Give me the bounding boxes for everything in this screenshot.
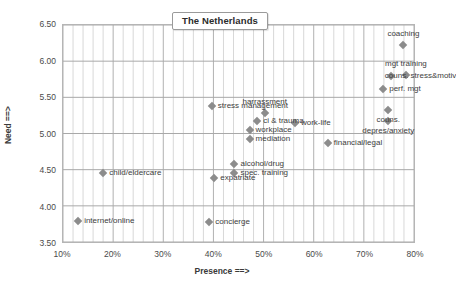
data-point-label: depres/anxiety [362, 126, 414, 135]
y-axis-tick-label: 6.50 [26, 19, 56, 29]
y-axis-tick-label: 4.50 [26, 165, 56, 175]
y-axis-tick-label: 5.50 [26, 92, 56, 102]
data-point-label: perf. mgt [389, 84, 421, 93]
x-axis-tick-label: 60% [297, 249, 331, 259]
data-point-label: financial/legal [334, 138, 382, 147]
data-point-label: workplace [256, 125, 292, 134]
x-axis-tick-label: 70% [348, 249, 382, 259]
x-axis-tick-label: 20% [95, 249, 129, 259]
y-axis-tick-label: 5.00 [26, 129, 56, 139]
data-point-label: mgt training [385, 59, 427, 68]
data-point-label: couns. [376, 115, 400, 124]
x-axis-tick-label: 10% [45, 249, 79, 259]
data-point-label: stress management [218, 101, 288, 110]
data-point-label: internet/online [84, 216, 134, 225]
data-point-label: concierge [215, 217, 250, 226]
data-point-label: mediation [256, 134, 291, 143]
data-point-label: coaching [387, 29, 419, 38]
y-axis-tick-label: 6.00 [26, 56, 56, 66]
y-axis-title: Need ==> [3, 95, 13, 155]
x-axis-tick-label: 40% [196, 249, 230, 259]
x-axis-title: Presence ==> [0, 266, 444, 276]
x-axis-tick-label: 80% [398, 249, 432, 259]
data-point-label: work-life [301, 118, 331, 127]
y-axis-tick-label: 3.50 [26, 238, 56, 248]
data-point-label: child/eldercare [109, 168, 161, 177]
x-axis-tick-label: 50% [247, 249, 281, 259]
data-point-label: expatriate [220, 173, 255, 182]
data-point-label: alcohol/drug [240, 159, 284, 168]
plot-area: coachingmgt trainingcouns. stress&motivp… [62, 24, 415, 243]
data-point-label: ci & trauma [263, 116, 303, 125]
chart-title: The Netherlands [172, 12, 268, 30]
data-point-label: couns. stress&motiv [385, 71, 456, 80]
x-axis-tick-label: 30% [146, 249, 180, 259]
y-axis-tick-label: 4.00 [26, 202, 56, 212]
